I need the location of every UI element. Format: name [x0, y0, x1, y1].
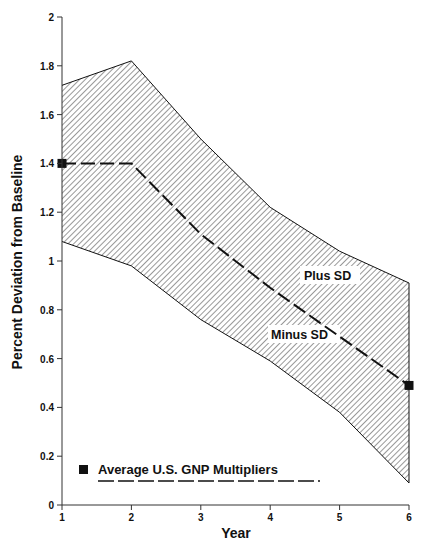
y-tick-label: 1.4 [40, 158, 54, 169]
y-tick-label: 1.2 [40, 207, 54, 218]
mean-marker-end [405, 381, 414, 390]
y-ticks: 00.20.40.60.811.21.41.61.82 [40, 12, 62, 511]
y-axis-title: Percent Deviation from Baseline [9, 154, 25, 369]
minus-sd-label: Minus SD [271, 328, 328, 342]
legend-label: Average U.S. GNP Multipliers [98, 462, 278, 477]
y-tick-label: 1 [48, 256, 54, 267]
x-tick-label: 4 [267, 512, 273, 523]
y-tick-label: 0.4 [40, 402, 54, 413]
x-tick-label: 3 [198, 512, 204, 523]
y-tick-label: 1.6 [40, 110, 54, 121]
y-tick-label: 0.6 [40, 354, 54, 365]
chart: 00.20.40.60.811.21.41.61.82 123456 Plus … [0, 0, 422, 544]
x-ticks: 123456 [59, 505, 412, 523]
y-tick-label: 0.2 [40, 451, 54, 462]
x-axis-title: Year [221, 525, 251, 541]
y-tick-label: 2 [48, 12, 54, 23]
y-tick-label: 1.8 [40, 61, 54, 72]
plus-sd-label: Plus SD [304, 269, 351, 283]
legend-marker-icon [79, 465, 88, 474]
x-tick-label: 1 [59, 512, 65, 523]
x-tick-label: 6 [406, 512, 412, 523]
x-tick-label: 5 [337, 512, 343, 523]
x-tick-label: 2 [129, 512, 135, 523]
y-tick-label: 0.8 [40, 305, 54, 316]
y-tick-label: 0 [48, 500, 54, 511]
